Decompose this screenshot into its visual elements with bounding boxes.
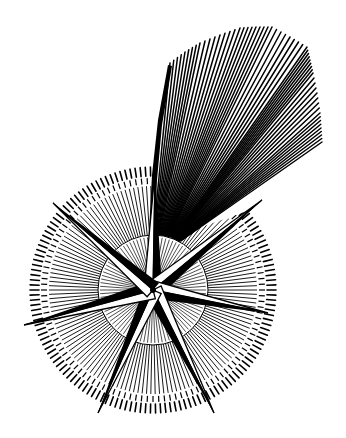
comet-engraving bbox=[0, 0, 346, 438]
